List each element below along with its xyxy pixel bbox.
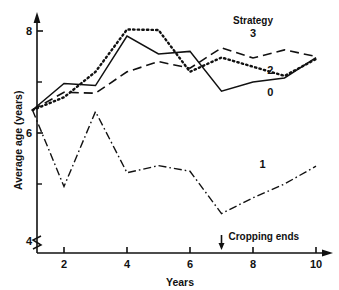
y-axis-title: Average age (years): [13, 90, 24, 189]
x-tick-label-8: 8: [250, 259, 256, 270]
chart-plot-area: [0, 0, 339, 290]
annotation-group: [219, 235, 225, 250]
x-tick-label-6: 6: [187, 259, 193, 270]
cropping-ends-annotation-label: Cropping ends: [229, 232, 300, 242]
series-label-0: 0: [267, 87, 273, 98]
y-tick-label-4: 4: [26, 236, 32, 247]
y-axis-break-marker: [33, 236, 41, 249]
x-tick-label-10: 10: [310, 259, 322, 270]
y-tick-label-6: 6: [26, 128, 32, 139]
series-line-2: [33, 29, 317, 110]
series-label-2: 2: [267, 65, 273, 76]
x-axis-arrowhead: [322, 250, 333, 257]
legend-title: Strategy: [233, 16, 273, 26]
axis-group: [33, 12, 333, 256]
x-tick-label-4: 4: [124, 259, 130, 270]
series-group: [33, 29, 317, 213]
y-tick-label-8: 8: [26, 26, 32, 37]
series-line-1: [33, 110, 317, 214]
series-label-3: 3: [250, 28, 256, 39]
cropping-ends-arrow-head: [219, 243, 225, 250]
y-axis-arrowhead: [34, 12, 41, 23]
chart-figure: Average age (years) Years 8 6 4 2 4 6 8 …: [0, 0, 339, 290]
x-axis-title: Years: [166, 277, 194, 288]
series-label-1: 1: [259, 159, 265, 170]
x-tick-label-2: 2: [61, 259, 67, 270]
